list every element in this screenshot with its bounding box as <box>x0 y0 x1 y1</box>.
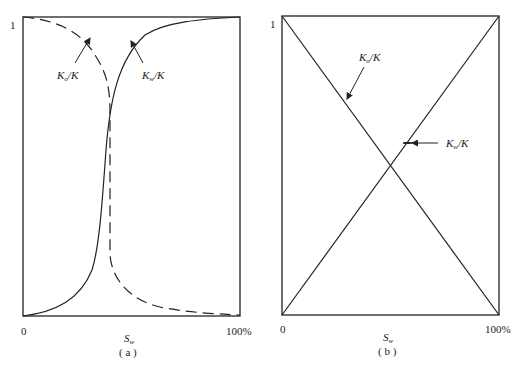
panel-b-x-tick-0: 0 <box>280 323 286 335</box>
panel-a-x-tick-100: 100% <box>226 325 252 337</box>
panel-a-x-tick-0: 0 <box>21 325 27 337</box>
panel-a-y-tick-1: 1 <box>10 19 16 31</box>
panel-b-kw-label: Kw/K <box>445 137 469 151</box>
relative-permeability-figure: Ko/K Kw/K 1 0 100% Sw ( a ) Ko/K Kw/K <box>0 0 517 367</box>
panel-b-ko-arrow <box>347 67 364 99</box>
panel-a-ko-label: Ko/K <box>56 69 79 83</box>
panel-a-frame <box>23 17 240 316</box>
panel-a-kw-label: Kw/K <box>141 69 165 83</box>
panel-b: Ko/K Kw/K 1 0 100% Sw ( b ) <box>270 16 511 358</box>
panel-b-caption: ( b ) <box>378 345 397 358</box>
panel-b-ko-label: Ko/K <box>358 51 381 65</box>
panel-b-x-tick-100: 100% <box>485 323 511 335</box>
panel-a-ko-curve <box>23 17 240 315</box>
panel-a-x-axis-label: Sw <box>124 332 135 346</box>
panel-b-x-axis-label: Sw <box>383 331 394 345</box>
panel-a: Ko/K Kw/K 1 0 100% Sw ( a ) <box>10 17 252 359</box>
panel-a-ko-arrow <box>75 38 90 63</box>
panel-b-y-tick-1: 1 <box>270 18 276 30</box>
panel-a-caption: ( a ) <box>119 346 137 359</box>
panel-a-kw-curve <box>23 17 240 316</box>
